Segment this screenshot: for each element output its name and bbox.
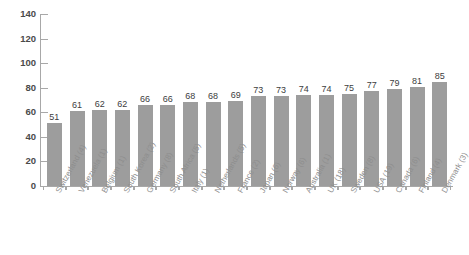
bar-value-label: 81 bbox=[412, 76, 422, 86]
bar-value-label: 75 bbox=[344, 83, 354, 93]
bar-value-label: 68 bbox=[185, 91, 195, 101]
bar-slot: 75 bbox=[338, 14, 361, 186]
x-axis-category-slot: UK (18) bbox=[315, 188, 338, 254]
bar-slot: 79 bbox=[383, 14, 406, 186]
bar-value-label: 66 bbox=[163, 94, 173, 104]
bar-value-label: 85 bbox=[435, 71, 445, 81]
x-axis-category-slot: Netherlands (5) bbox=[202, 188, 225, 254]
x-axis-category-slot: Sweden (8) bbox=[338, 188, 361, 254]
y-axis-tick-label: 60 bbox=[0, 106, 36, 117]
y-axis-tick-label: 100 bbox=[0, 57, 36, 68]
y-axis-tick-label: 0 bbox=[0, 180, 36, 191]
x-axis-category-slot: South Africa (5) bbox=[156, 188, 179, 254]
x-axis-category-slot: USA (19) bbox=[360, 188, 383, 254]
x-axis-category-slot: Norway (6) bbox=[270, 188, 293, 254]
bar-value-label: 73 bbox=[276, 85, 286, 95]
y-axis-tick-label: 80 bbox=[0, 82, 36, 93]
x-axis-category-slot: Australia (1) bbox=[292, 188, 315, 254]
x-axis-category-slot: Germany (8) bbox=[134, 188, 157, 254]
bar-value-label: 51 bbox=[49, 112, 59, 122]
y-axis-tick-label: 120 bbox=[0, 33, 36, 44]
x-axis-category-slot: Denmark (3) bbox=[428, 188, 451, 254]
x-axis-category-slot: Venezuela (1) bbox=[66, 188, 89, 254]
x-axis-category-slot: Belgium (1) bbox=[88, 188, 111, 254]
x-axis-category-labels: Switzerland (4)Venezuela (1)Belgium (1)S… bbox=[41, 188, 453, 254]
x-axis-category-slot: Finland (4) bbox=[406, 188, 429, 254]
bar-value-label: 62 bbox=[95, 99, 105, 109]
y-axis-tick-label: 20 bbox=[0, 155, 36, 166]
y-axis-tick-label: 40 bbox=[0, 131, 36, 142]
x-axis-category-slot: France (2) bbox=[224, 188, 247, 254]
bar-value-label: 61 bbox=[72, 100, 82, 110]
bar-value-label: 69 bbox=[231, 90, 241, 100]
bar-value-label: 73 bbox=[253, 85, 263, 95]
bar-value-label: 77 bbox=[367, 80, 377, 90]
bar-value-label: 79 bbox=[389, 78, 399, 88]
bar-value-label: 74 bbox=[321, 84, 331, 94]
x-axis-category-slot: Switzerland (4) bbox=[43, 188, 66, 254]
x-axis-category-slot: Italy (1) bbox=[179, 188, 202, 254]
y-axis-tick-label: 140 bbox=[0, 8, 36, 19]
x-axis-category-slot: Japan (6) bbox=[247, 188, 270, 254]
bar-value-label: 74 bbox=[299, 84, 309, 94]
bar-value-label: 66 bbox=[140, 94, 150, 104]
x-axis-category-slot: Canada (6) bbox=[383, 188, 406, 254]
bar-slot: 68 bbox=[202, 14, 225, 186]
bar-slot: 51 bbox=[43, 14, 66, 186]
bar bbox=[47, 123, 62, 186]
bar-value-label: 62 bbox=[117, 99, 127, 109]
bar-value-label: 68 bbox=[208, 91, 218, 101]
x-axis-category-slot: South Korea (2) bbox=[111, 188, 134, 254]
